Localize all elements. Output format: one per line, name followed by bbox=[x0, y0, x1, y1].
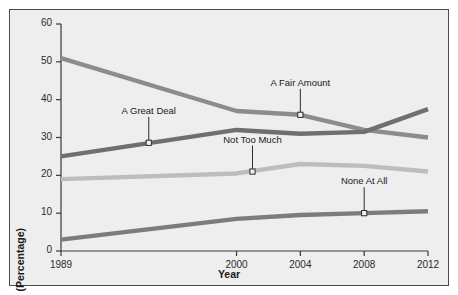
y-tick-label: 20 bbox=[8, 168, 52, 179]
annotation-marker bbox=[362, 211, 367, 216]
x-tick-label: 2012 bbox=[398, 259, 458, 270]
chart-figure: Bias in news (Percentage) Year 010203040… bbox=[0, 0, 458, 295]
x-tick-label: 2008 bbox=[334, 259, 394, 270]
annotation-label: Not Too Much bbox=[192, 134, 312, 145]
y-tick-label: 10 bbox=[8, 206, 52, 217]
x-tick-label: 2004 bbox=[270, 259, 330, 270]
y-tick-label: 60 bbox=[8, 17, 52, 28]
annotation-marker bbox=[298, 112, 303, 117]
y-tick-label: 40 bbox=[8, 93, 52, 104]
x-tick-label: 1989 bbox=[31, 259, 91, 270]
annotation-label: A Fair Amount bbox=[240, 77, 360, 88]
y-tick-label: 50 bbox=[8, 55, 52, 66]
annotation-marker bbox=[250, 169, 255, 174]
y-tick-label: 0 bbox=[8, 244, 52, 255]
plot-area bbox=[0, 0, 458, 295]
series-line bbox=[61, 58, 428, 137]
annotation-label: None At All bbox=[304, 175, 424, 186]
y-tick-label: 30 bbox=[8, 131, 52, 142]
annotation-label: A Great Deal bbox=[89, 105, 209, 116]
x-tick-label: 2000 bbox=[207, 259, 267, 270]
series-line bbox=[61, 211, 428, 239]
annotation-marker bbox=[146, 140, 151, 145]
